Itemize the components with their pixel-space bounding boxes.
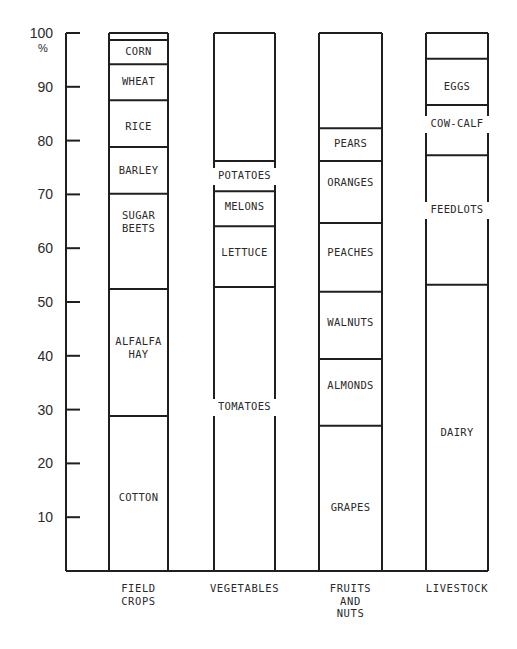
y-tick-label: 30 <box>37 402 53 418</box>
y-tick-label: 80 <box>37 133 53 149</box>
segment-label-sugar-beets: SUGAR <box>122 209 155 221</box>
segment-label-corn: CORN <box>125 45 152 57</box>
bar-livestock: DAIRYFEEDLOTSCOW-CALFEGGS <box>426 33 488 571</box>
category-label: CROPS <box>121 595 156 607</box>
category-label: NUTS <box>337 607 365 619</box>
category-label: FRUITS <box>330 582 372 594</box>
y-tick-label: 20 <box>37 455 53 471</box>
bars: COTTONALFALFAHAYSUGARBEETSBARLEYRICEWHEA… <box>109 33 488 571</box>
y-tick-label: 90 <box>37 79 53 95</box>
bar-fruits-and-nuts: GRAPESALMONDSWALNUTSPEACHESORANGESPEARS <box>319 33 382 571</box>
segment-label-grapes: GRAPES <box>331 501 371 513</box>
y-tick-label: 10 <box>37 509 53 525</box>
segment-label-cow-calf: COW-CALF <box>431 117 484 129</box>
y-tick-label: 50 <box>37 294 53 310</box>
y-tick-label: 100 <box>30 25 54 41</box>
segment-label-feedlots: FEEDLOTS <box>431 203 484 215</box>
segment-label-barley: BARLEY <box>119 164 159 176</box>
segment-label-alfalfa-hay: ALFALFA <box>115 335 162 347</box>
segment-label-dairy: DAIRY <box>440 426 473 438</box>
segment-label-tomatoes: TOMATOES <box>218 400 271 412</box>
category-label: VEGETABLES <box>210 582 279 594</box>
category-label: AND <box>340 595 361 607</box>
y-tick-label: 60 <box>37 240 53 256</box>
segment-label-peaches: PEACHES <box>327 246 373 258</box>
segment-label-walnuts: WALNUTS <box>327 316 373 328</box>
segment-label-sugar-beets: BEETS <box>122 222 155 234</box>
y-unit-label: % <box>38 42 48 54</box>
category-label: LIVESTOCK <box>426 582 488 594</box>
segment-label-melons: MELONS <box>225 200 265 212</box>
stacked-bar-chart: 102030405060708090100% COTTONALFALFAHAYS… <box>0 0 517 649</box>
segment-label-lettuce: LETTUCE <box>221 246 267 258</box>
x-axis: FIELDCROPSVEGETABLESFRUITSANDNUTSLIVESTO… <box>66 571 488 619</box>
segment-label-alfalfa-hay: HAY <box>129 348 149 360</box>
y-tick-label: 40 <box>37 348 53 364</box>
bar-vegetables: TOMATOESLETTUCEMELONSPOTATOES <box>214 33 275 571</box>
y-tick-label: 70 <box>37 186 53 202</box>
segment-label-cotton: COTTON <box>119 491 159 503</box>
bar-field-crops: COTTONALFALFAHAYSUGARBEETSBARLEYRICEWHEA… <box>109 33 168 571</box>
segment-label-wheat: WHEAT <box>122 75 155 87</box>
category-label: FIELD <box>121 582 156 594</box>
segment-label-potatoes: POTATOES <box>218 169 271 181</box>
segment-label-oranges: ORANGES <box>327 176 373 188</box>
y-axis: 102030405060708090100% <box>30 25 80 571</box>
segment-label-pears: PEARS <box>334 137 367 149</box>
segment-label-eggs: EGGS <box>444 80 471 92</box>
segment-label-rice: RICE <box>125 120 152 132</box>
segment-label-almonds: ALMONDS <box>327 379 373 391</box>
